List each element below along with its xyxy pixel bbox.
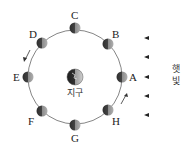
- moon-g: [70, 120, 81, 131]
- sunlight-arrow-icon: [144, 75, 170, 79]
- sunlight-arrows: [144, 36, 170, 117]
- moon-phase-diagram: 지구 A B C D E F G H 햇 빛: [0, 0, 191, 155]
- moon-a: [117, 72, 128, 83]
- sunlight-arrow-icon: [144, 94, 170, 98]
- moon-b: [103, 39, 114, 50]
- moon-d: [37, 38, 48, 49]
- moon-e: [23, 72, 34, 83]
- moon-h: [103, 105, 114, 116]
- moon-label-e: E: [13, 71, 20, 83]
- moon-label-g: G: [71, 132, 79, 144]
- sunlight-arrow-icon: [144, 36, 170, 40]
- moon-label-h: H: [112, 115, 120, 127]
- orbit-direction-arrow-right: [121, 93, 128, 104]
- sunlight-arrow-icon: [144, 113, 170, 117]
- moon-label-c: C: [71, 9, 78, 21]
- sunlight-arrow-icon: [144, 55, 170, 59]
- orbit-direction-arrow-left: [23, 50, 30, 62]
- moon-f: [37, 106, 48, 117]
- moon-label-b: B: [112, 28, 119, 40]
- sunlight-label-2: 빛: [172, 76, 180, 86]
- earth-label: 지구: [67, 88, 83, 98]
- moon-label-d: D: [29, 28, 37, 40]
- earth: [67, 69, 83, 85]
- moon-label-f: F: [28, 115, 34, 127]
- moon-c: [70, 23, 81, 34]
- sunlight-label-1: 햇: [172, 63, 180, 74]
- moon-label-a: A: [129, 71, 137, 83]
